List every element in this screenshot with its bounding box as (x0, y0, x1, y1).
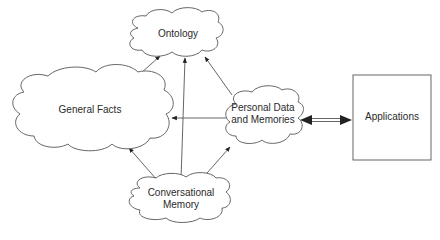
personal-data-label-line1: Personal Data (231, 102, 294, 114)
edge-conversational-to-ontology (181, 58, 185, 180)
ontology-label: Ontology (158, 28, 198, 40)
conversational-memory-label-line1: Conversational (148, 187, 215, 199)
general-facts-label: General Facts (59, 104, 122, 116)
edge-conversational-to-generalfacts (129, 148, 158, 181)
edge-personaldata-applications-bidirectional (300, 115, 352, 125)
conversational-memory-label-line2: Memory (148, 199, 215, 211)
personal-data-label: Personal Data and Memories (231, 102, 294, 126)
personal-data-label-line2: and Memories (231, 114, 294, 126)
conversational-memory-label: Conversational Memory (148, 187, 215, 211)
applications-label: Applications (365, 111, 419, 123)
edge-personaldata-to-ontology (205, 57, 232, 95)
